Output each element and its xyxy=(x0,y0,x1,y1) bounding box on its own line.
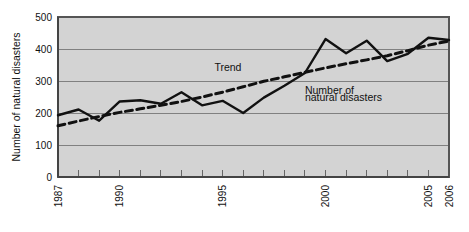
y-tick-label: 100 xyxy=(35,140,52,151)
annotation-label: Trend xyxy=(214,61,241,73)
y-axis-title: Number of natural disasters xyxy=(10,33,22,162)
natural-disasters-line-chart: 0100200300400500 19871990199520002005200… xyxy=(0,0,469,232)
x-tick-label: 2005 xyxy=(423,185,434,208)
x-tick-label: 2000 xyxy=(320,185,331,208)
y-axis-tick-labels: 0100200300400500 xyxy=(35,12,52,183)
x-axis-tick-labels: 198719901995200020052006 xyxy=(53,185,455,208)
chart-figure: 0100200300400500 19871990199520002005200… xyxy=(0,0,469,232)
x-tick-label: 1995 xyxy=(217,185,228,208)
y-tick-label: 400 xyxy=(35,44,52,55)
y-tick-label: 300 xyxy=(35,76,52,87)
y-tick-label: 0 xyxy=(46,172,52,183)
y-tick-label: 200 xyxy=(35,108,52,119)
x-tick-label: 2006 xyxy=(444,185,455,208)
plot-area-background xyxy=(58,17,449,177)
x-tick-label: 1987 xyxy=(53,185,64,208)
annotation-label: natural disasters xyxy=(305,91,382,103)
y-tick-label: 500 xyxy=(35,12,52,23)
x-tick-label: 1990 xyxy=(114,185,125,208)
